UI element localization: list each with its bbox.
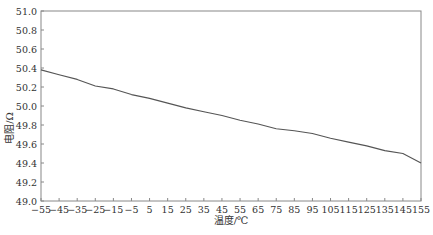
y-tick-label: 49.2	[16, 177, 37, 188]
x-tick-label: 145	[394, 204, 412, 215]
x-tick-label: 95	[306, 204, 318, 215]
y-tick-label: 50.6	[16, 44, 37, 55]
x-tick-label: 75	[270, 204, 282, 215]
y-tick-label: 50.8	[16, 25, 37, 36]
line-chart: 49.049.249.449.649.850.050.250.450.650.8…	[0, 0, 433, 235]
x-tick-label: 15	[162, 204, 174, 215]
x-tick-label: 5	[147, 204, 153, 215]
y-tick-label: 49.6	[16, 139, 37, 150]
x-tick-label: 105	[321, 204, 339, 215]
x-tick-label: 45	[216, 204, 228, 215]
x-tick-label: 35	[198, 204, 210, 215]
x-axis-title: 温度/℃	[214, 214, 249, 226]
y-tick-label: 49.4	[16, 158, 37, 169]
x-tick-label: −55	[31, 204, 51, 215]
x-tick-label: −5	[124, 204, 138, 215]
x-tick-label: 25	[180, 204, 192, 215]
plot-border	[41, 11, 421, 201]
x-tick-label: −25	[85, 204, 105, 215]
x-tick-label: −45	[49, 204, 69, 215]
x-tick-label: 85	[288, 204, 300, 215]
x-tick-label: −35	[67, 204, 87, 215]
y-tick-label: 50.4	[16, 63, 37, 74]
data-series	[41, 70, 421, 163]
y-tick-label: 49.8	[16, 120, 37, 131]
x-tick-label: −15	[103, 204, 123, 215]
x-tick-label: 115	[340, 204, 358, 215]
y-axis: 49.049.249.449.649.850.050.250.450.650.8…	[16, 6, 44, 207]
x-tick-label: 125	[358, 204, 376, 215]
x-tick-label: 155	[412, 204, 430, 215]
y-axis-title: 电阻/Ω	[3, 112, 15, 144]
x-tick-label: 65	[252, 204, 264, 215]
series-line	[41, 70, 421, 163]
x-tick-label: 135	[376, 204, 394, 215]
plot-area	[41, 11, 421, 201]
y-tick-label: 50.2	[16, 82, 37, 93]
y-tick-label: 51.0	[16, 6, 37, 17]
x-tick-label: 55	[234, 204, 246, 215]
y-tick-label: 50.0	[16, 101, 37, 112]
